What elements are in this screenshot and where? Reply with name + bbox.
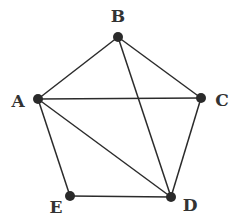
edge-a-b	[38, 37, 118, 99]
edge-a-c	[38, 98, 201, 99]
edge-c-d	[171, 98, 201, 197]
edges-group	[38, 37, 201, 197]
edge-b-c	[118, 37, 201, 98]
edge-b-d	[118, 37, 171, 197]
node-e	[65, 191, 75, 201]
node-label-c: C	[215, 90, 229, 110]
edge-a-d	[38, 99, 171, 197]
node-label-d: D	[183, 195, 198, 215]
nodes-group	[33, 32, 206, 202]
edge-e-d	[70, 196, 171, 197]
node-label-e: E	[50, 197, 63, 217]
edge-a-e	[38, 99, 70, 196]
node-label-b: B	[111, 6, 125, 26]
node-d	[166, 192, 176, 202]
node-c	[196, 93, 206, 103]
node-label-a: A	[10, 91, 25, 111]
node-b	[113, 32, 123, 42]
graph-diagram: ABCDE	[0, 0, 242, 224]
node-a	[33, 94, 43, 104]
